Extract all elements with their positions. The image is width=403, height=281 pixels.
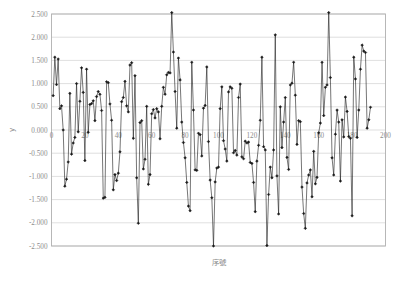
x-tick-label: 120: [247, 132, 258, 140]
y-tick-label: 1.000: [31, 80, 48, 88]
y-tick-label: 0.500: [31, 103, 48, 111]
x-tick-label: 0: [50, 132, 54, 140]
y-tick-label: -2.500: [29, 243, 48, 251]
y-tick-label: 1.500: [31, 57, 48, 65]
x-tick-label: 60: [148, 132, 156, 140]
y-tick-label: -1.500: [29, 196, 48, 204]
y-axis-title: y: [7, 128, 16, 132]
y-tick-label: 2.500: [31, 11, 48, 19]
y-tick-label: -1.000: [29, 173, 48, 181]
chart-figure: 2.5002.0001.5001.0000.5000.000-0.500-1.0…: [0, 0, 403, 281]
x-tick-label: 100: [213, 132, 224, 140]
y-tick-label: -2.000: [29, 219, 48, 227]
x-tick-label: 200: [380, 132, 391, 140]
chart-canvas: 2.5002.0001.5001.0000.5000.000-0.500-1.0…: [0, 0, 403, 281]
x-axis-title: 序號: [212, 258, 227, 267]
y-tick-label: -0.500: [29, 150, 48, 158]
chart-background: [0, 0, 403, 281]
x-tick-label: 40: [115, 132, 123, 140]
y-tick-label: 0.000: [31, 127, 48, 135]
y-tick-label: 2.000: [31, 34, 48, 42]
